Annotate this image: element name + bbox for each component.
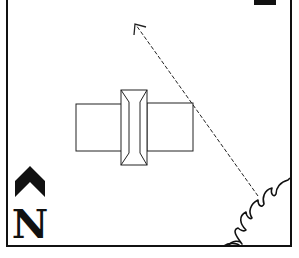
site-plan-diagram: N <box>0 0 299 258</box>
corner-fragment <box>254 0 276 5</box>
building-left-wing <box>76 104 122 151</box>
north-label: N <box>12 200 49 247</box>
arrowhead-icon <box>134 24 146 35</box>
building-footprint <box>76 90 193 165</box>
building-right-wing <box>147 103 193 151</box>
shrub-icon <box>224 178 290 246</box>
chevron-up-icon <box>15 166 45 197</box>
building-center-block <box>121 90 147 165</box>
north-arrow: N <box>12 166 49 247</box>
